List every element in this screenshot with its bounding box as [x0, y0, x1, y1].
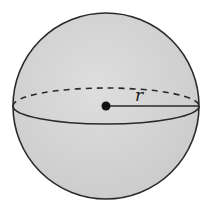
- center-point: [102, 102, 111, 111]
- radius-label: r: [135, 85, 144, 105]
- sphere-diagram: r: [0, 0, 211, 210]
